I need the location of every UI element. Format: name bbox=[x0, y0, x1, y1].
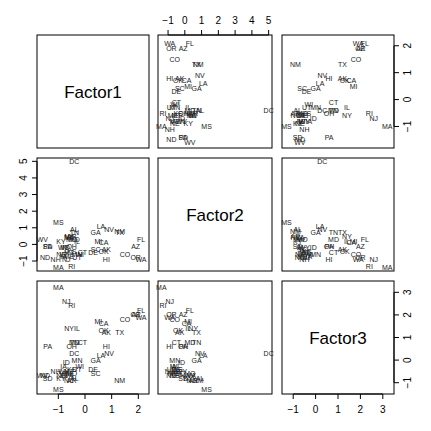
tick-label: 0 bbox=[313, 404, 319, 415]
tick-label: −1 bbox=[287, 404, 299, 415]
point-label: NY bbox=[64, 325, 74, 332]
panel-points: AKALARAZCACOCTDCDEFLGAHIIAIDILINKSKYLAMA… bbox=[281, 40, 393, 147]
panel-points: AKALARAZCACOCTDCDEFLGAHIIAIDILINKSKYLAMA… bbox=[37, 284, 147, 393]
point-label: NV bbox=[104, 226, 114, 233]
point-label: MI bbox=[94, 318, 102, 325]
point-label: OK bbox=[173, 327, 183, 334]
point-label: WV bbox=[37, 372, 49, 379]
point-label: WV bbox=[37, 236, 49, 243]
tick-label: 0 bbox=[402, 357, 413, 363]
point-label: IL bbox=[74, 325, 80, 332]
point-label: MA bbox=[53, 264, 64, 271]
point-label: LA bbox=[199, 80, 208, 87]
point-label: NY bbox=[342, 112, 352, 119]
point-label: TX bbox=[115, 329, 124, 336]
point-label: NH bbox=[299, 126, 309, 133]
tick-label: 1 bbox=[18, 225, 29, 231]
point-label: ND bbox=[166, 136, 176, 143]
variable-label-factor1: Factor1 bbox=[64, 83, 122, 102]
point-label: TX bbox=[192, 329, 201, 336]
point-label: NV bbox=[104, 350, 114, 357]
tick-label: 2 bbox=[216, 15, 222, 26]
point-label: TN bbox=[70, 339, 79, 346]
x-axis-factor3: −10123 bbox=[287, 394, 386, 415]
point-label: TX bbox=[338, 61, 347, 68]
point-label: WA bbox=[353, 256, 364, 263]
point-label: VT bbox=[59, 251, 69, 258]
tick-label: 3 bbox=[402, 289, 413, 295]
tick-label: −1 bbox=[53, 404, 65, 415]
point-label: MI bbox=[184, 83, 192, 90]
point-label: NM bbox=[114, 377, 125, 384]
tick-label: 5 bbox=[18, 158, 29, 164]
point-label: IL bbox=[344, 104, 350, 111]
point-label: OK bbox=[340, 248, 350, 255]
point-label: RI bbox=[366, 110, 373, 117]
y-axis-factor1: −1012 bbox=[394, 43, 413, 133]
point-label: OK bbox=[99, 327, 109, 334]
point-label: WY bbox=[176, 118, 188, 125]
point-label: MA bbox=[53, 284, 64, 291]
point-label: PA bbox=[43, 343, 52, 350]
point-label: FL bbox=[137, 236, 145, 243]
point-label: LA bbox=[316, 80, 325, 87]
tick-label: −1 bbox=[402, 120, 413, 132]
tick-label: 2 bbox=[358, 404, 364, 415]
point-label: SD bbox=[43, 243, 53, 250]
point-label: MA bbox=[156, 284, 167, 291]
point-label: MI bbox=[94, 238, 102, 245]
point-label: MS bbox=[201, 386, 212, 393]
point-label: CO bbox=[120, 251, 131, 258]
point-label: FL bbox=[186, 307, 194, 314]
point-label: WA bbox=[164, 40, 175, 47]
x-axis-factor2: −1012345 bbox=[162, 15, 272, 35]
scatterplot-matrix: Factor1Factor2Factor3 −1012−1012345−1012… bbox=[0, 0, 431, 431]
point-label: HI bbox=[166, 343, 173, 350]
point-label: SC bbox=[297, 85, 307, 92]
tick-label: 2 bbox=[18, 208, 29, 214]
tick-label: −1 bbox=[402, 377, 413, 389]
point-label: HI bbox=[103, 256, 110, 263]
point-label: WY bbox=[299, 244, 311, 251]
point-label: NH bbox=[165, 126, 175, 133]
point-label: WY bbox=[58, 368, 70, 375]
point-label: CO bbox=[351, 56, 362, 63]
point-label: PA bbox=[325, 134, 334, 141]
tick-label: 0 bbox=[82, 404, 88, 415]
point-label: WA bbox=[164, 314, 175, 321]
point-label: CO bbox=[120, 316, 131, 323]
point-label: PA bbox=[179, 343, 188, 350]
point-label: FL bbox=[361, 236, 369, 243]
tick-label: 0 bbox=[182, 15, 188, 26]
tick-label: 1 bbox=[199, 15, 205, 26]
tick-label: 5 bbox=[266, 15, 272, 26]
variable-label-factor2: Factor2 bbox=[186, 206, 244, 225]
tick-label: 2 bbox=[402, 43, 413, 49]
point-label: RI bbox=[160, 110, 167, 117]
tick-label: 4 bbox=[18, 175, 29, 181]
point-label: TX bbox=[338, 229, 347, 236]
point-label: CO bbox=[170, 56, 181, 63]
tick-label: 1 bbox=[335, 404, 341, 415]
point-label: MS bbox=[281, 123, 292, 130]
point-label: NV bbox=[195, 72, 205, 79]
point-label: WY bbox=[176, 368, 188, 375]
point-label: OK bbox=[173, 77, 183, 84]
point-label: WA bbox=[135, 256, 146, 263]
point-label: RI bbox=[160, 302, 167, 309]
point-label: OK bbox=[340, 77, 350, 84]
tick-label: 1 bbox=[402, 69, 413, 75]
point-label: DC bbox=[69, 158, 79, 165]
panel-points: AKALARAZCACOCTDCDEFLGAHIIAIDILINKSKYLAMA… bbox=[281, 158, 393, 271]
point-label: RI bbox=[366, 263, 373, 270]
panel-points: AKALARAZCACOCTDCDEFLGAHIIAIDILINKSKYLAMA… bbox=[156, 40, 274, 147]
point-label: SC bbox=[175, 85, 185, 92]
point-label: WI bbox=[305, 251, 314, 258]
point-label: NJ bbox=[165, 298, 174, 305]
point-label: MS bbox=[201, 123, 212, 130]
panel-points: AKALARAZCACOCTDCDEFLGAHIIAIDILINKSKYLAMA… bbox=[156, 284, 274, 393]
point-label: HI bbox=[326, 256, 333, 263]
tick-label: 3 bbox=[232, 15, 238, 26]
point-label: WV bbox=[294, 236, 306, 243]
point-label: WI bbox=[170, 101, 179, 108]
